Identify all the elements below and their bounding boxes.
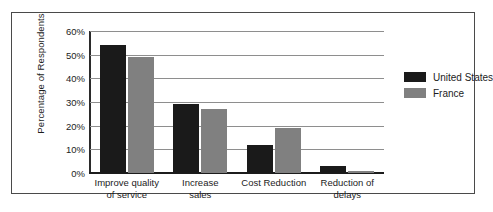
chart-legend: United StatesFrance [404,70,493,102]
plot-area: 0%10%20%30%40%50%60% Improve quality of … [90,31,384,173]
y-axis-tick-label: 30% [66,97,85,108]
chart-frame: Percentage of Respondents 0%10%20%30%40%… [11,12,475,194]
bar [275,128,301,173]
y-axis-tick-label: 0% [71,168,85,179]
bar [128,57,154,173]
bar [348,171,374,173]
y-axis-tick-label: 40% [66,73,85,84]
y-axis-tick-label: 50% [66,49,85,60]
x-axis-category-label: Improve quality of service [90,177,164,200]
bar [320,166,346,173]
x-axis-category-label: Reduction of delays [311,177,385,200]
bar-group [173,31,227,173]
bar [173,104,199,173]
bar [247,145,273,173]
legend-swatch [404,88,426,98]
bar [100,45,126,173]
y-axis-tick-label: 10% [66,144,85,155]
x-axis-category-label: Increase sales [164,177,238,200]
legend-swatch [404,72,426,82]
bar-group [320,31,374,173]
legend-label: France [433,88,464,99]
bar-group [100,31,154,173]
y-axis-tick-label: 20% [66,120,85,131]
legend-item: United States [404,70,493,84]
x-axis-category-label: Cost Reduction [237,177,311,189]
y-axis-tick-label: 60% [66,26,85,37]
legend-label: United States [433,72,493,83]
y-axis-title: Percentage of Respondents [35,4,46,144]
bar [201,109,227,173]
bar-group [247,31,301,173]
legend-item: France [404,86,493,100]
